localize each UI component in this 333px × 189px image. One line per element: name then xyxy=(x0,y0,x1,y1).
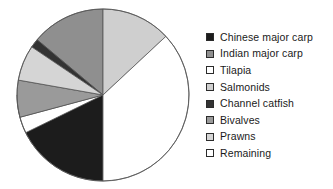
legend-item-label: Prawns xyxy=(220,131,256,142)
legend-swatch-icon xyxy=(206,50,214,58)
legend-item-prawns[interactable]: Prawns xyxy=(206,129,333,146)
legend-item-tilapia[interactable]: Tilapia xyxy=(206,62,333,79)
legend-item-label: Salmonids xyxy=(220,82,270,93)
legend-item-remaining[interactable]: Remaining xyxy=(206,145,333,162)
legend-item-label: Remaining xyxy=(220,148,271,159)
legend-item-label: Bivalves xyxy=(220,115,260,126)
legend-item-chinese-major-carp[interactable]: Chinese major carp xyxy=(206,29,333,46)
legend-item-channel-catfish[interactable]: Channel catfish xyxy=(206,95,333,112)
legend-swatch-icon xyxy=(206,83,214,91)
legend-item-label: Chinese major carp xyxy=(220,32,313,43)
pie-chart-figure: Chinese major carp Indian major carp Til… xyxy=(0,0,333,189)
legend-swatch-icon xyxy=(206,149,214,157)
legend-swatch-icon xyxy=(206,33,214,41)
legend-item-label: Tilapia xyxy=(220,65,251,76)
chart-legend: Chinese major carp Indian major carp Til… xyxy=(206,29,333,163)
legend-item-label: Channel catfish xyxy=(220,98,294,109)
legend-item-salmonids[interactable]: Salmonids xyxy=(206,79,333,96)
legend-item-bivalves[interactable]: Bivalves xyxy=(206,112,333,129)
pie-slice-group xyxy=(17,9,189,181)
pie-chart-svg xyxy=(14,4,194,186)
legend-swatch-icon xyxy=(206,133,214,141)
legend-swatch-icon xyxy=(206,116,214,124)
legend-swatch-icon xyxy=(206,100,214,108)
legend-swatch-icon xyxy=(206,66,214,74)
pie-chart-plot-area xyxy=(14,4,194,186)
legend-item-indian-major-carp[interactable]: Indian major carp xyxy=(206,46,333,63)
legend-item-label: Indian major carp xyxy=(220,48,303,59)
